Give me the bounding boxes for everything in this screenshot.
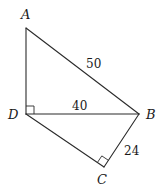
vertex-label-A: A (20, 7, 30, 22)
vertex-label-B: B (145, 107, 156, 122)
length-label-CB: 24 (124, 144, 140, 158)
vertex-label-C: C (97, 172, 107, 187)
vertex-label-D: D (7, 107, 19, 122)
segment-DC (26, 114, 104, 167)
right-angle-marker-C (97, 156, 108, 163)
length-label-DB: 40 (72, 99, 87, 113)
segment-CB (104, 114, 139, 167)
geometry-diagram: A D B C 50 40 24 (0, 0, 166, 193)
length-label-AB: 50 (86, 57, 101, 71)
right-angle-marker-D (26, 106, 34, 114)
